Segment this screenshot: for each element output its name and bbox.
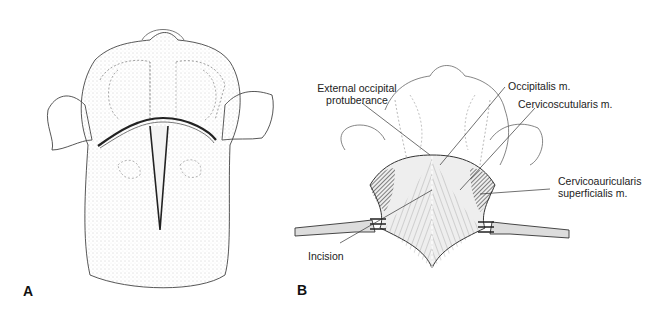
illustration-svg xyxy=(0,0,660,317)
label-line: superficialis m. xyxy=(558,187,641,199)
label-incision: Incision xyxy=(308,250,344,262)
label-cervicoauricularis-superficialis: Cervicoauricularis superficialis m. xyxy=(558,175,641,199)
panel-a-drawing xyxy=(47,30,273,288)
label-line: External occipital xyxy=(297,82,417,94)
panel-letter-b: B xyxy=(297,282,307,298)
panel-letter-a: A xyxy=(23,283,33,299)
label-cervicoscutularis: Cervicoscutularis m. xyxy=(518,98,613,110)
label-line: protuberance xyxy=(297,94,417,106)
label-external-occipital-protuberance: External occipital protuberance xyxy=(297,82,417,106)
label-occipitalis: Occipitalis m. xyxy=(508,80,570,92)
label-line: Cervicoauricularis xyxy=(558,175,641,187)
